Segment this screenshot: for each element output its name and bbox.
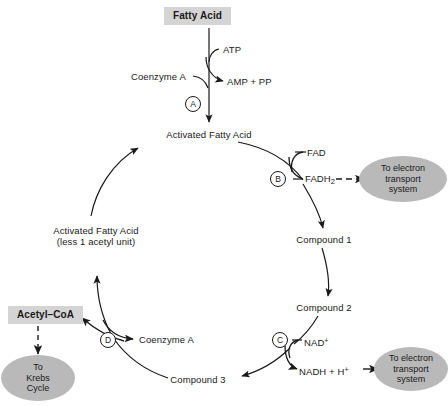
node-acetyl-coa: Acetyl–CoA	[8, 306, 83, 324]
label-nadh-h: NADH + H+	[299, 364, 349, 377]
etc2-line1: To electron	[389, 353, 433, 363]
arrow-fadh2-out	[289, 157, 303, 179]
label-coenzyme-a-bottom: Coenzyme A	[139, 334, 194, 345]
label-fad: FAD	[307, 147, 326, 158]
etc2-line2: transport	[393, 364, 429, 374]
sink-electron-transport-2: To electron transport system	[374, 347, 448, 391]
arrow-nad-in	[289, 340, 298, 358]
node-fatty-acid: Fatty Acid	[164, 7, 231, 25]
step-marker-b: B	[270, 171, 286, 187]
arc-compound1-to-compound2	[322, 248, 329, 296]
etc1-line3: system	[389, 184, 418, 194]
etc1-line2: transport	[385, 174, 421, 184]
arrow-atp-in	[209, 49, 219, 62]
arc-b-to-compound1	[303, 184, 323, 228]
sink-krebs-cycle: To Krebs Cycle	[1, 355, 75, 401]
step-marker-d: D	[100, 332, 116, 348]
arrow-coenzymea-in-top	[193, 76, 208, 88]
label-atp: ATP	[223, 44, 241, 55]
etc1-line1: To electron	[381, 163, 425, 173]
afa-less-line2: (less 1 acetyl unit)	[57, 236, 136, 247]
node-activated-fatty-acid: Activated Fatty Acid	[166, 129, 251, 140]
node-compound-1: Compound 1	[296, 234, 351, 245]
step-marker-a: A	[185, 96, 201, 112]
node-compound-3: Compound 3	[170, 374, 225, 385]
node-activated-fatty-acid-less: Activated Fatty Acid (less 1 acetyl unit…	[53, 225, 138, 247]
pathway-diagram-canvas	[0, 0, 448, 406]
krebs-line3: Cycle	[27, 383, 50, 393]
step-marker-c: C	[272, 332, 288, 348]
label-fadh2: FADH2	[305, 173, 335, 187]
sink-electron-transport-1: To electron transport system	[359, 156, 447, 202]
node-compound-2: Compound 2	[296, 302, 351, 313]
arc-d-to-activated-less	[97, 276, 111, 334]
afa-less-line1: Activated Fatty Acid	[53, 225, 138, 236]
arc-activatedless-to-activated	[91, 148, 138, 216]
arc-c-to-compound3	[242, 348, 290, 376]
arrow-nadh-out	[285, 345, 297, 369]
etc2-line3: system	[397, 374, 426, 384]
label-nad-plus: NAD+	[304, 335, 329, 348]
krebs-line2: Krebs	[26, 373, 50, 383]
krebs-line1: To	[33, 362, 43, 372]
label-amp-pp: AMP + PP	[227, 76, 272, 87]
label-coenzyme-a-top: Coenzyme A	[131, 71, 186, 82]
